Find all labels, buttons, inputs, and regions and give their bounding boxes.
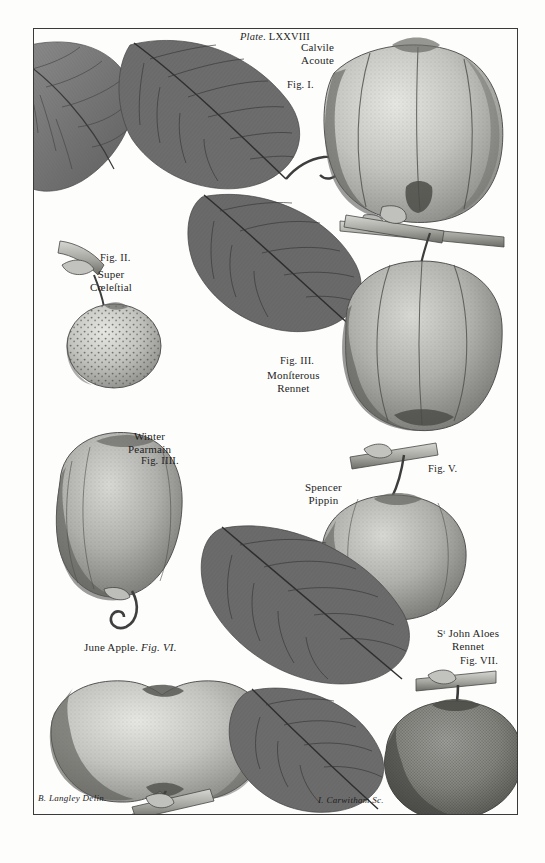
plate-word: Plate.: [240, 31, 266, 42]
fig-2-name-label: Super Cœleſtial: [90, 268, 132, 295]
fig-1-name-line1: Calvile: [301, 41, 334, 54]
fig-4-name-line1: Winter: [128, 430, 171, 443]
apple: [66, 302, 161, 388]
plate-number-label: Plate. LXXVIII: [240, 31, 310, 44]
leaf: [188, 194, 361, 331]
fig-7-name-label: Sᵗ John Aloes Rennet: [437, 627, 499, 654]
draughtsman-credit: B. Langley Delin.: [38, 793, 107, 804]
fig-2-figure-label: Fig. II.: [100, 252, 130, 265]
fig-1-name-label: Calvile Acoute: [301, 41, 334, 68]
twig: [350, 443, 438, 497]
fig-3-name-line1: Monſterous: [267, 369, 320, 382]
leaf: [34, 42, 133, 191]
fig-5-name-line1: Spencer: [305, 481, 342, 494]
leaf: [229, 688, 384, 812]
fig-7-artwork: [229, 670, 517, 814]
plate-sheet: Plate. LXXVIII Calvile Acoute Fig. I. Fi…: [0, 0, 545, 863]
fig-6-figure-label: Fig. VI.: [141, 641, 177, 653]
fig-3-name-line2: Rennet: [267, 382, 320, 395]
apple: [385, 699, 518, 814]
fig-2-name-line1: Super: [90, 268, 132, 281]
fig-1-name-line2: Acoute: [301, 54, 334, 67]
fig-3-figure-label: Fig. III.: [280, 355, 314, 368]
fig-7-name-line1: Sᵗ John Aloes: [437, 627, 499, 640]
fig-7-figure-label: Fig. VII.: [460, 655, 498, 668]
engraving-artwork: [34, 29, 517, 814]
fig-5-figure-label: Fig. V.: [428, 463, 457, 476]
fig-6-name-line1: June Apple: [84, 641, 135, 653]
fig-3-name-label: Monſterous Rennet: [267, 369, 320, 396]
fig-6-name-label: June Apple. Fig. VI.: [84, 641, 177, 654]
fig-2-name-line2: Cœleſtial: [90, 281, 132, 294]
fig-1-figure-label: Fig. I.: [287, 79, 314, 92]
engraving-area: [34, 29, 517, 814]
fig-5-name-label: Spencer Pippin: [305, 481, 342, 508]
fig-7-name-line2: Rennet: [437, 640, 499, 653]
engraver-credit: I. Carwitham Sc.: [318, 795, 384, 806]
fig-5-name-line2: Pippin: [305, 494, 342, 507]
apple: [342, 261, 502, 431]
fig-4-name-label: Winter Pearmain: [128, 430, 171, 457]
fig-5-artwork: [201, 443, 466, 684]
leaf: [119, 40, 300, 188]
apple: [324, 38, 503, 223]
fig-4-figure-label: Fig. IIII.: [141, 455, 179, 468]
